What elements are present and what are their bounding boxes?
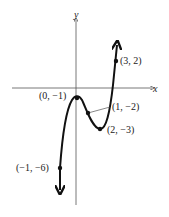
point-label: (−1, −6) [16,163,49,173]
point-label: (0, −1) [39,91,66,101]
point-neg1-neg6 [58,166,62,170]
point-3-2 [114,59,118,63]
point-1-neg2 [86,111,90,115]
y-axis-label: y [74,10,78,20]
leader-line [88,107,110,113]
point-label: (2, −3) [107,125,134,135]
point-2-neg3 [98,127,102,131]
point-label: (3, 2) [120,56,142,66]
x-axis-label: x [153,84,157,94]
point-label: (1, −2) [112,102,139,112]
point-0-neg1 [75,96,79,100]
graph [0,0,169,217]
curve [60,45,117,188]
